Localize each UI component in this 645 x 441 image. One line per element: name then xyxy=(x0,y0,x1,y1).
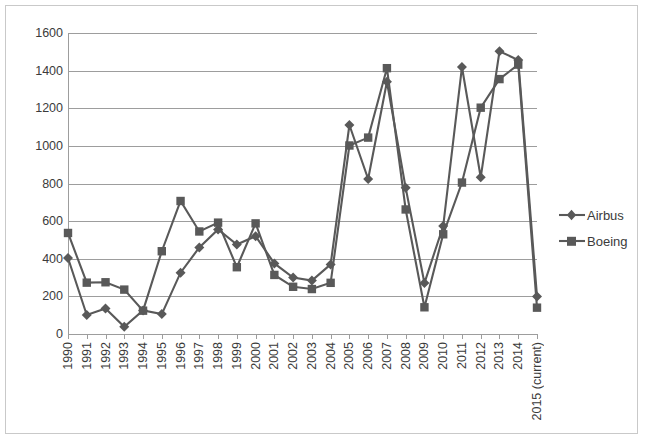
series-svg xyxy=(68,33,537,334)
data-point-marker-square xyxy=(477,103,485,111)
x-tick-mark-21 xyxy=(462,334,463,339)
data-point-marker-square xyxy=(83,278,91,286)
y-tick-label-600: 600 xyxy=(19,215,63,228)
x-tick-label-24: 2014 xyxy=(512,342,525,370)
data-point-marker-square xyxy=(270,271,278,279)
series-line-airbus xyxy=(68,51,537,327)
data-point-marker-square xyxy=(533,303,541,311)
x-tick-mark-9 xyxy=(237,334,238,339)
x-tick-label-12: 2002 xyxy=(287,342,300,370)
x-tick-mark-25 xyxy=(537,334,538,339)
data-point-marker-diamond xyxy=(157,309,167,319)
data-point-marker-diamond xyxy=(532,291,542,301)
legend-item-airbus[interactable]: Airbus xyxy=(559,202,639,228)
square-icon xyxy=(559,234,585,248)
data-point-marker-square xyxy=(233,263,241,271)
x-tick-mark-12 xyxy=(293,334,294,339)
chart-frame: 02004006008001000120014001600 1990199119… xyxy=(5,5,638,434)
y-axis-labels: 02004006008001000120014001600 xyxy=(11,33,63,334)
x-tick-mark-15 xyxy=(349,334,350,339)
data-point-marker-square xyxy=(251,219,259,227)
x-tick-label-1: 1991 xyxy=(81,342,94,370)
chart-legend: Airbus Boeing xyxy=(559,202,639,254)
x-tick-label-14: 2004 xyxy=(325,342,338,370)
legend-label: Boeing xyxy=(587,234,627,249)
data-point-marker-square xyxy=(289,283,297,291)
data-point-marker-square xyxy=(514,60,522,68)
y-tick-label-1000: 1000 xyxy=(19,140,63,153)
x-tick-mark-24 xyxy=(518,334,519,339)
x-tick-mark-22 xyxy=(481,334,482,339)
data-point-marker-square xyxy=(120,285,128,293)
x-tick-label-20: 2010 xyxy=(437,342,450,370)
x-tick-mark-11 xyxy=(274,334,275,339)
x-tick-label-18: 2008 xyxy=(400,342,413,370)
x-tick-label-13: 2003 xyxy=(306,342,319,370)
x-tick-label-3: 1993 xyxy=(118,342,131,370)
x-tick-mark-7 xyxy=(199,334,200,339)
data-point-marker-diamond xyxy=(63,253,73,263)
data-point-marker-square xyxy=(158,247,166,255)
data-point-marker-square xyxy=(326,279,334,287)
x-tick-mark-18 xyxy=(406,334,407,339)
data-point-marker-square xyxy=(308,285,316,293)
y-tick-label-1400: 1400 xyxy=(19,64,63,77)
x-tick-mark-8 xyxy=(218,334,219,339)
data-point-marker-square xyxy=(364,133,372,141)
data-point-marker-diamond xyxy=(344,120,354,130)
data-point-marker-square xyxy=(420,303,428,311)
x-tick-mark-13 xyxy=(312,334,313,339)
x-tick-label-0: 1990 xyxy=(62,342,75,370)
data-point-marker-square xyxy=(345,141,353,149)
data-point-marker-square xyxy=(176,197,184,205)
data-point-marker-square xyxy=(64,229,72,237)
legend-label: Airbus xyxy=(587,208,624,223)
x-tick-label-2: 1992 xyxy=(100,342,113,370)
x-tick-label-25: 2015 (current) xyxy=(531,342,544,421)
data-point-marker-square xyxy=(495,75,503,83)
data-point-marker-square xyxy=(401,205,409,213)
x-tick-mark-4 xyxy=(143,334,144,339)
x-tick-mark-6 xyxy=(181,334,182,339)
data-point-marker-diamond xyxy=(494,46,504,56)
y-tick-label-800: 800 xyxy=(19,177,63,190)
x-tick-label-9: 1999 xyxy=(231,342,244,370)
x-tick-label-8: 1998 xyxy=(212,342,225,370)
x-tick-label-22: 2012 xyxy=(475,342,488,370)
x-tick-mark-5 xyxy=(162,334,163,339)
diamond-icon xyxy=(559,208,585,222)
x-tick-label-6: 1996 xyxy=(175,342,188,370)
data-point-marker-square xyxy=(101,278,109,286)
x-tick-label-4: 1994 xyxy=(137,342,150,370)
data-point-marker-diamond xyxy=(363,174,373,184)
x-tick-mark-1 xyxy=(87,334,88,339)
y-tick-label-1600: 1600 xyxy=(19,27,63,40)
x-tick-mark-14 xyxy=(331,334,332,339)
x-tick-label-17: 2007 xyxy=(381,342,394,370)
y-tick-label-400: 400 xyxy=(19,253,63,266)
x-tick-mark-0 xyxy=(68,334,69,339)
data-point-marker-square xyxy=(139,306,147,314)
y-tick-label-200: 200 xyxy=(19,290,63,303)
data-point-marker-square xyxy=(214,218,222,226)
data-point-marker-square xyxy=(383,64,391,72)
x-tick-mark-2 xyxy=(106,334,107,339)
plot-area xyxy=(68,33,537,334)
data-point-marker-diamond xyxy=(476,172,486,182)
data-point-marker-diamond xyxy=(457,62,467,72)
x-tick-label-11: 2001 xyxy=(268,342,281,370)
x-tick-mark-17 xyxy=(387,334,388,339)
legend-item-boeing[interactable]: Boeing xyxy=(559,228,639,254)
data-point-marker-square xyxy=(195,227,203,235)
x-tick-label-10: 2000 xyxy=(250,342,263,370)
x-tick-mark-20 xyxy=(443,334,444,339)
data-point-marker-square xyxy=(458,178,466,186)
x-tick-mark-3 xyxy=(124,334,125,339)
x-tick-label-15: 2005 xyxy=(343,342,356,370)
data-point-marker-diamond xyxy=(82,310,92,320)
x-axis-labels: 1990199119921993199419951996199719981999… xyxy=(68,342,538,441)
x-tick-mark-16 xyxy=(368,334,369,339)
x-tick-mark-23 xyxy=(499,334,500,339)
x-tick-label-5: 1995 xyxy=(156,342,169,370)
x-tick-label-21: 2011 xyxy=(456,342,469,369)
